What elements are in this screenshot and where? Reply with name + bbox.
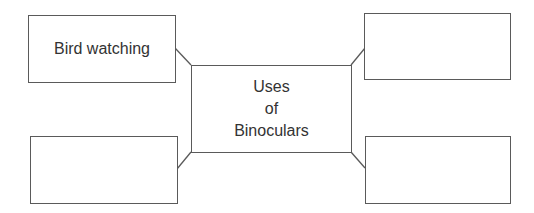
branch-label-top-left: Bird watching: [54, 38, 150, 60]
center-topic-line-1: Uses: [253, 76, 289, 98]
center-topic-line-2: of: [265, 98, 278, 120]
branch-box-bottom-left: [30, 136, 178, 204]
center-topic-line-3: Binoculars: [234, 120, 309, 142]
branch-box-bottom-right: [365, 136, 511, 204]
connector-bottom-right: [351, 152, 365, 168]
connector-bottom-left: [177, 152, 191, 169]
branch-box-top-right: [364, 13, 511, 80]
branch-box-top-left: Bird watching: [28, 15, 176, 83]
center-topic-box: Uses of Binoculars: [191, 65, 352, 153]
mind-map-canvas: Bird watching Uses of Binoculars: [0, 0, 534, 213]
connector-top-left: [175, 48, 191, 65]
connector-top-right: [351, 48, 365, 65]
